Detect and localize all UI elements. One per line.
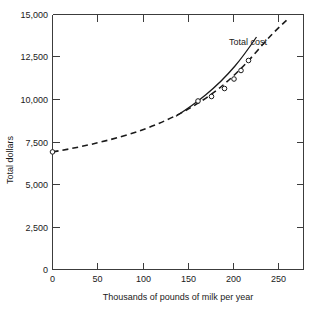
total-cost-annotation-label: Total cost xyxy=(229,37,268,47)
x-tick-label-100: 100 xyxy=(136,274,151,284)
x-axis-title: Thousands of pounds of milk per year xyxy=(103,292,254,302)
x-axis-ticks-top xyxy=(98,15,279,22)
data-point-marker xyxy=(222,86,227,91)
x-tick-label-0: 0 xyxy=(50,274,55,284)
y-axis-ticks xyxy=(53,15,60,270)
data-point-marker xyxy=(196,99,201,104)
y-tick-label-15000: 15,000 xyxy=(20,10,48,20)
plot-frame xyxy=(53,15,304,270)
x-axis-tick-labels: 0 50 100 150 200 250 xyxy=(50,274,286,284)
total-cost-curve-solid xyxy=(176,37,257,116)
total-cost-chart: 15,000 12,500 10,000 7,500 5,000 2,500 0… xyxy=(0,0,318,309)
y-axis-title: Total dollars xyxy=(5,135,15,184)
y-axis-tick-labels: 15,000 12,500 10,000 7,500 5,000 2,500 0 xyxy=(20,10,48,275)
y-tick-label-12500: 12,500 xyxy=(20,52,48,62)
observed-data-points xyxy=(50,58,251,154)
x-tick-label-250: 250 xyxy=(271,274,286,284)
x-tick-label-200: 200 xyxy=(226,274,241,284)
x-tick-label-50: 50 xyxy=(92,274,102,284)
x-axis-ticks xyxy=(53,263,279,270)
y-tick-label-2500: 2,500 xyxy=(25,223,48,233)
data-point-marker xyxy=(232,77,237,82)
chart-figure: 15,000 12,500 10,000 7,500 5,000 2,500 0… xyxy=(0,0,318,309)
data-point-marker xyxy=(50,150,55,155)
data-point-marker xyxy=(246,58,251,63)
data-point-marker xyxy=(239,68,244,73)
y-tick-label-5000: 5,000 xyxy=(25,180,48,190)
y-tick-label-10000: 10,000 xyxy=(20,95,48,105)
y-tick-label-0: 0 xyxy=(43,265,48,275)
x-tick-label-150: 150 xyxy=(181,274,196,284)
y-tick-label-7500: 7,500 xyxy=(25,138,48,148)
data-point-marker xyxy=(209,94,214,99)
y-axis-ticks-right xyxy=(297,57,304,228)
